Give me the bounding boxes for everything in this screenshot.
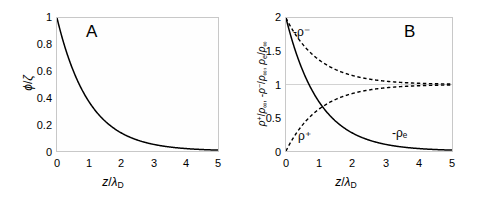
panel-b: B ρ+/ρ∞, -ρ−/ρ∞, ρe/ρ∞ z/λD 2 1.5 1 0.5 … — [245, 0, 490, 201]
x-tick-a-3: 3 — [151, 157, 157, 169]
y-tick-a-3: 0.4 — [30, 92, 52, 104]
y-axis-title-a: ϕ/ζ — [21, 53, 35, 113]
x-tick-b-0: 0 — [283, 157, 289, 169]
y-tick-b-4: 0 — [255, 146, 281, 158]
figure-root: A ϕ/ζ z/λD 1 0.8 0.6 0.4 0.2 0 0 1 2 3 4… — [0, 0, 490, 201]
x-tick-b-5: 5 — [449, 157, 455, 169]
panel-a: A ϕ/ζ z/λD 1 0.8 0.6 0.4 0.2 0 0 1 2 3 4… — [0, 0, 245, 201]
x-axis-title-b: z/λD — [335, 175, 356, 190]
x-tick-a-1: 1 — [86, 157, 92, 169]
x-tick-a-0: 0 — [54, 157, 60, 169]
plot-area-b — [286, 18, 452, 151]
x-tick-b-4: 4 — [416, 157, 422, 169]
x-tick-b-1: 1 — [316, 157, 322, 169]
y-tick-b-2: 1 — [255, 79, 281, 91]
y-tick-a-5: 0 — [30, 146, 52, 158]
x-tick-b-3: 3 — [383, 157, 389, 169]
x-tick-a-2: 2 — [118, 157, 124, 169]
y-tick-a-4: 0.2 — [30, 119, 52, 131]
plot-area-a — [57, 18, 218, 151]
y-tick-b-3: 0.5 — [255, 112, 281, 124]
x-tick-b-2: 2 — [349, 157, 355, 169]
panel-letter-a: A — [86, 22, 97, 42]
x-tick-a-5: 5 — [215, 157, 221, 169]
curve-label-rho-e: -ρₑ — [392, 126, 407, 140]
panel-letter-b: B — [404, 22, 415, 42]
plot-frame-a — [56, 17, 219, 152]
y-tick-a-2: 0.6 — [30, 65, 52, 77]
curve-label-rho-plus: ρ⁺ — [298, 129, 311, 143]
y-tick-a-1: 0.8 — [30, 38, 52, 50]
y-tick-a-0: 1 — [30, 11, 52, 23]
x-tick-a-4: 4 — [183, 157, 189, 169]
curve-label-rho-minus: -ρ⁻ — [293, 25, 310, 39]
x-axis-title-a: z/λD — [102, 175, 123, 190]
y-tick-b-1: 1.5 — [255, 45, 281, 57]
y-tick-b-0: 2 — [255, 11, 281, 23]
